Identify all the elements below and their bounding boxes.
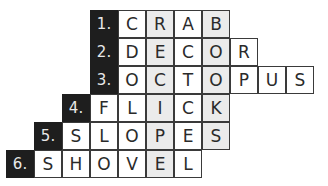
crossword-grid: 1.CRAB2.DECOR3.OCTOPUS4.FLICK5.SLOPES6.S… bbox=[0, 0, 328, 186]
clue-number-3: 3. bbox=[90, 66, 118, 94]
clue-number-2: 2. bbox=[90, 38, 118, 66]
letter-cell[interactable]: K bbox=[202, 94, 230, 122]
clue-number-4: 4. bbox=[62, 94, 90, 122]
letter-cell[interactable]: C bbox=[118, 10, 146, 38]
letter-cell[interactable]: L bbox=[90, 122, 118, 150]
letter-cell[interactable]: I bbox=[146, 94, 174, 122]
letter-cell[interactable]: P bbox=[146, 122, 174, 150]
letter-cell[interactable]: C bbox=[174, 94, 202, 122]
letter-cell[interactable]: P bbox=[230, 66, 258, 94]
clue-number-1: 1. bbox=[90, 10, 118, 38]
letter-cell[interactable]: S bbox=[286, 66, 314, 94]
letter-cell[interactable]: O bbox=[202, 66, 230, 94]
letter-cell[interactable]: O bbox=[118, 66, 146, 94]
letter-cell[interactable]: D bbox=[118, 38, 146, 66]
letter-cell[interactable]: R bbox=[146, 10, 174, 38]
letter-cell[interactable]: R bbox=[230, 38, 258, 66]
letter-cell[interactable]: O bbox=[202, 38, 230, 66]
letter-cell[interactable]: O bbox=[118, 122, 146, 150]
letter-cell[interactable]: E bbox=[174, 122, 202, 150]
letter-cell[interactable]: C bbox=[146, 66, 174, 94]
letter-cell[interactable]: S bbox=[34, 150, 62, 178]
letter-cell[interactable]: V bbox=[118, 150, 146, 178]
clue-number-5: 5. bbox=[34, 122, 62, 150]
letter-cell[interactable]: B bbox=[202, 10, 230, 38]
letter-cell[interactable]: E bbox=[146, 150, 174, 178]
clue-number-6: 6. bbox=[6, 150, 34, 178]
letter-cell[interactable]: S bbox=[62, 122, 90, 150]
letter-cell[interactable]: F bbox=[90, 94, 118, 122]
letter-cell[interactable]: L bbox=[174, 150, 202, 178]
letter-cell[interactable]: C bbox=[174, 38, 202, 66]
letter-cell[interactable]: A bbox=[174, 10, 202, 38]
letter-cell[interactable]: H bbox=[62, 150, 90, 178]
letter-cell[interactable]: U bbox=[258, 66, 286, 94]
letter-cell[interactable]: L bbox=[118, 94, 146, 122]
letter-cell[interactable]: O bbox=[90, 150, 118, 178]
letter-cell[interactable]: E bbox=[146, 38, 174, 66]
letter-cell[interactable]: S bbox=[202, 122, 230, 150]
letter-cell[interactable]: T bbox=[174, 66, 202, 94]
